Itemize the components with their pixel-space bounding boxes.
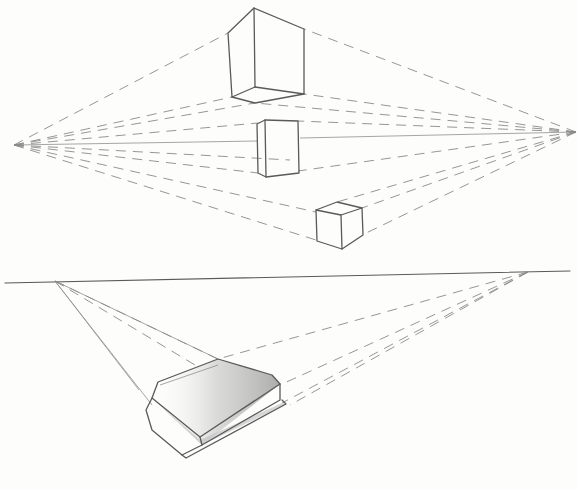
upper-horizon-line <box>14 132 576 145</box>
perspective-drawing <box>0 0 577 489</box>
book-drawing <box>146 359 286 458</box>
cube-on-horizon <box>257 120 299 177</box>
lower-horizon-line <box>5 271 570 283</box>
sketch-svg <box>0 0 577 489</box>
cube-below-horizon <box>316 202 363 249</box>
upper-construction-lines <box>14 29 576 240</box>
cube-above-horizon <box>228 8 304 103</box>
lower-construction-lines <box>55 272 528 405</box>
